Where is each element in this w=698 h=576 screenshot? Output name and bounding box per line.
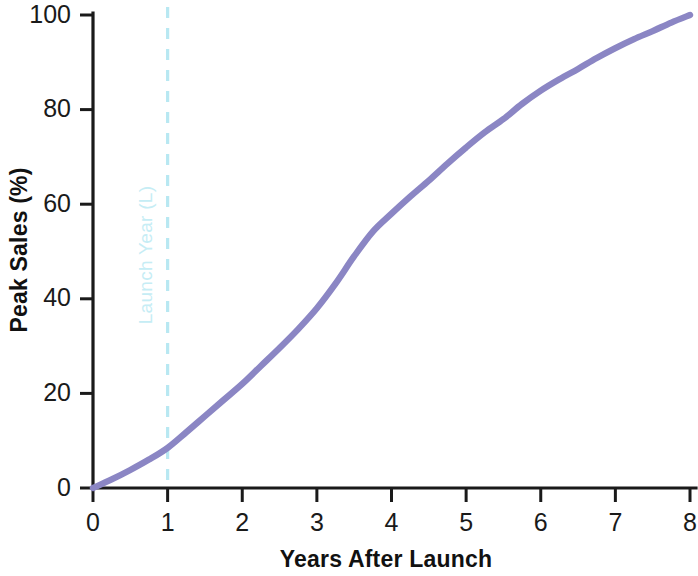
x-axis-tick-label: 8 — [683, 508, 697, 536]
x-axis-tick-label: 5 — [459, 508, 473, 536]
x-axis-tick-label: 1 — [161, 508, 175, 536]
x-axis-title: Years After Launch — [280, 546, 492, 572]
y-axis-tick-label: 60 — [43, 189, 71, 217]
x-axis-tick-label: 7 — [608, 508, 622, 536]
x-axis-tick-label: 3 — [310, 508, 324, 536]
x-axis-tick-label: 4 — [385, 508, 399, 536]
y-axis-tick-label: 20 — [43, 378, 71, 406]
x-axis-tick-label: 2 — [235, 508, 249, 536]
y-axis-tick-label: 80 — [43, 94, 71, 122]
line-chart: 020406080100 012345678 Launch Year (L) Y… — [0, 0, 698, 576]
chart-container: 020406080100 012345678 Launch Year (L) Y… — [0, 0, 698, 576]
x-axis-tick-label: 0 — [86, 508, 100, 536]
y-axis-tick-label: 40 — [43, 283, 71, 311]
launch-year-label: Launch Year (L) — [135, 186, 156, 325]
y-axis-tick-label: 0 — [57, 473, 71, 501]
y-axis-title: Peak Sales (%) — [6, 167, 32, 332]
x-axis-tick-label: 6 — [534, 508, 548, 536]
y-axis-tick-label: 100 — [29, 0, 71, 28]
